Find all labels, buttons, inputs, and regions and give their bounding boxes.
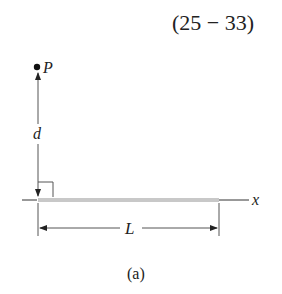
rod-field-diagram: (25 − 33) P d x L (a) <box>0 0 282 294</box>
figure-canvas: (25 − 33) P d x L (a) <box>0 0 282 294</box>
point-p-label: P <box>42 59 53 76</box>
x-axis-label: x <box>251 191 259 208</box>
equation-number: (25 − 33) <box>172 10 254 35</box>
rod <box>38 198 219 202</box>
right-angle-marker <box>38 182 53 197</box>
distance-label: d <box>33 125 42 142</box>
length-label: L <box>124 219 134 238</box>
point-p-dot <box>34 64 40 70</box>
figure-caption: (a) <box>127 265 145 283</box>
